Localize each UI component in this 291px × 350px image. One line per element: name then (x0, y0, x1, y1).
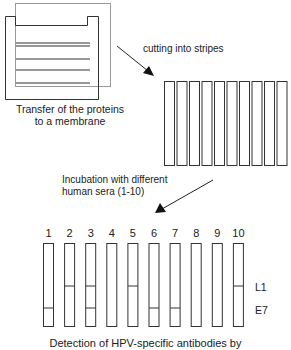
band-label-e7: E7 (255, 304, 268, 316)
strip-number: 1 (41, 227, 57, 239)
incubation-label-line2: human sera (1-10) (62, 186, 167, 198)
cutting-label: cutting into stripes (143, 43, 224, 55)
strip-number: 6 (146, 227, 162, 239)
result-strip (44, 244, 54, 327)
result-strip (86, 244, 96, 327)
result-strips (44, 244, 244, 327)
result-strip (65, 244, 75, 327)
cut-stripes (165, 82, 288, 166)
incubation-label-line1: Incubation with different (62, 174, 167, 186)
strip-number: 3 (83, 227, 99, 239)
strip-number: 8 (188, 227, 204, 239)
result-strip (149, 244, 159, 327)
result-strip (212, 244, 222, 327)
result-strip (170, 244, 180, 327)
result-strip (107, 244, 117, 327)
membrane (16, 4, 111, 87)
bottom-caption: Detection of HPV-specific antibodies by (0, 337, 291, 349)
strip-number: 5 (125, 227, 141, 239)
result-strip (128, 244, 138, 327)
result-strip (233, 244, 243, 327)
strip-number: 7 (167, 227, 183, 239)
gel-bands (16, 43, 90, 83)
band-label-l1: L1 (255, 281, 267, 293)
strip-number: 10 (230, 227, 246, 239)
result-strip (191, 244, 201, 327)
gel (6, 17, 99, 100)
step1-caption-line2: to a membrane (2, 115, 138, 127)
strip-number: 2 (62, 227, 78, 239)
strip-number: 4 (104, 227, 120, 239)
incubation-label: Incubation with different human sera (1-… (62, 174, 167, 198)
step1-caption: Transfer of the proteins to a membrane (2, 103, 138, 127)
step1-caption-line1: Transfer of the proteins (2, 103, 138, 115)
strip-number: 9 (209, 227, 225, 239)
